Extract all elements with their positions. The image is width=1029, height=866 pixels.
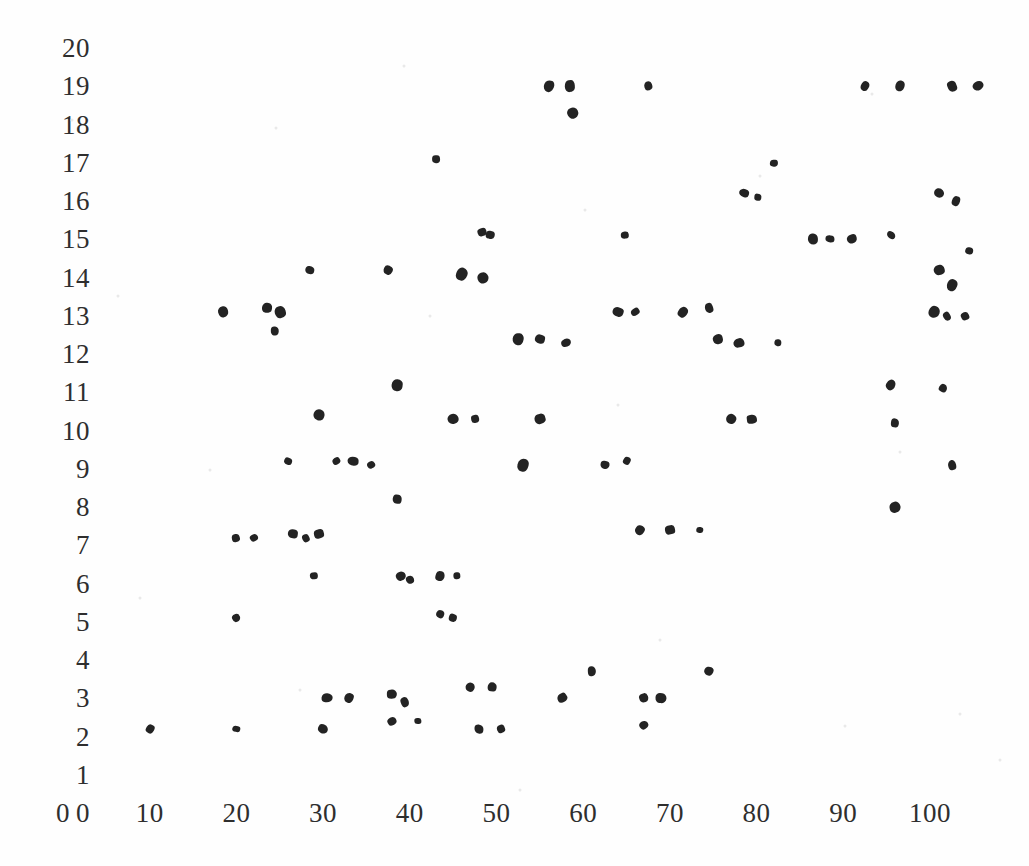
data-point [415,718,423,725]
data-point [932,187,945,200]
x-axis-tick-labels: 0102030405060708090100 [0,800,1029,840]
data-point [217,305,229,318]
data-point [611,306,625,318]
data-point [587,666,596,676]
data-point [942,310,953,321]
data-point [938,383,949,394]
data-point [305,265,316,274]
data-point [555,692,568,705]
data-point [512,332,524,345]
x-tick-label: 50 [483,800,511,827]
data-point [889,501,902,514]
data-point [284,457,293,466]
data-point [633,523,646,536]
data-point [630,307,641,318]
data-point [711,332,724,344]
data-point [405,574,415,584]
paper-speckle [584,209,587,212]
paper-speckle [659,639,662,642]
data-point [959,311,969,321]
data-point [891,418,900,428]
data-point [313,528,325,539]
data-point [485,230,495,240]
data-point [488,682,497,692]
paper-speckle [999,759,1002,762]
paper-speckle [759,175,762,178]
data-point [846,234,858,245]
data-point [477,270,491,284]
data-point [392,494,402,504]
data-point [331,456,341,466]
data-point [704,302,715,314]
paper-speckle [139,597,142,600]
data-point [947,459,957,470]
x-tick-label: 20 [222,800,250,827]
data-point [565,80,576,92]
data-point [273,305,286,319]
data-point [432,155,440,163]
data-point [703,665,715,677]
data-point [808,234,818,245]
paper-speckle [519,789,522,792]
data-point [232,725,241,733]
data-point [884,378,898,392]
data-point [754,194,762,201]
data-point [655,693,667,703]
data-point [516,457,530,472]
data-point [643,81,653,92]
x-tick-label: 0 [56,800,70,827]
data-point [600,460,610,469]
data-point [621,456,632,467]
data-point [932,264,945,276]
data-point [951,195,961,206]
data-point [287,528,299,539]
data-point [454,266,469,282]
x-tick-label: 90 [829,800,857,827]
paper-speckle [899,451,902,454]
paper-speckle [403,65,406,68]
x-tick-label: 40 [396,800,424,827]
data-point [738,188,750,199]
data-point [886,230,897,240]
paper-speckle [275,127,278,130]
paper-speckle [117,295,120,298]
data-point [310,572,319,580]
data-point [301,533,311,543]
data-point [348,457,359,466]
data-point [724,412,738,426]
x-tick-label: 30 [309,800,337,827]
data-point [946,80,958,93]
data-point [261,302,273,314]
x-tick-label: 80 [743,800,771,827]
data-point [435,609,445,620]
data-point [231,613,241,623]
data-point [945,278,959,293]
data-point [343,692,355,705]
data-point [638,692,650,704]
data-point [565,106,580,121]
paper-speckle [871,93,874,96]
data-point [747,414,758,424]
data-point [560,337,572,348]
paper-speckle [959,713,962,716]
data-point [271,326,280,336]
data-point [248,532,258,542]
data-point [434,570,445,582]
data-point [448,613,458,623]
data-point [826,235,835,243]
data-point [387,690,398,699]
x-tick-label: 70 [656,800,684,827]
data-point [676,305,689,319]
data-point [311,408,326,423]
data-point [894,80,906,93]
data-point [664,524,676,535]
x-tick-label: 60 [569,800,597,827]
data-point [400,696,412,708]
data-point [533,413,546,426]
data-point [620,232,629,240]
x-tick-label: 10 [136,800,164,827]
data-point [322,693,334,703]
data-point [859,80,871,93]
paper-speckle [844,725,847,728]
data-point [964,246,973,255]
